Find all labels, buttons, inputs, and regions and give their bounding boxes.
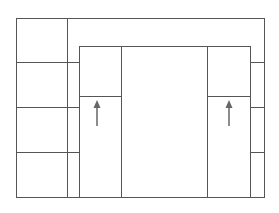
inner-box bbox=[80, 47, 251, 198]
arrow-up-icon-left bbox=[94, 100, 101, 126]
floor-plan-diagram bbox=[0, 0, 279, 213]
diagram-canvas bbox=[0, 0, 279, 213]
arrow-up-icon-right bbox=[226, 100, 233, 126]
